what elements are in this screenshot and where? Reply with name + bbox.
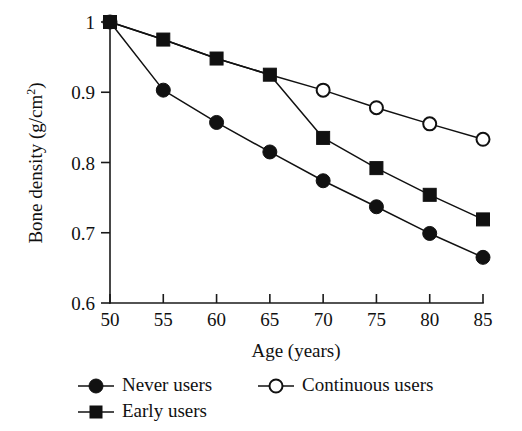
data-point-never-users-age-60 [210, 115, 224, 129]
series-markers-group [103, 15, 490, 264]
data-point-never-users-age-55 [156, 83, 170, 97]
data-point-never-users-age-85 [476, 250, 490, 264]
x-tick-label-60: 60 [207, 309, 226, 330]
data-point-early-users-age-55 [157, 33, 170, 46]
x-axis-group: 5055606570758085 [101, 294, 493, 330]
y-tick-marks [101, 22, 110, 303]
y-tick-label-1: 1 [86, 12, 96, 33]
x-axis-title: Age (years) [251, 340, 340, 362]
legend-label-early-users: Early users [122, 400, 207, 421]
y-axis-group: 0.60.70.80.91 [71, 12, 110, 314]
x-tick-label-55: 55 [154, 309, 173, 330]
x-tick-label-50: 50 [101, 309, 120, 330]
x-tick-marks [110, 294, 483, 303]
legend-label-never-users: Never users [122, 374, 212, 395]
x-tick-label-70: 70 [314, 309, 333, 330]
x-tick-labels: 5055606570758085 [101, 309, 493, 330]
legend-entry-never-users[interactable]: Never users [78, 374, 212, 395]
data-point-early-users-age-80 [423, 188, 436, 201]
legend-marker-early-users [90, 406, 102, 418]
chart-legend: Never usersContinuous usersEarly users [78, 374, 433, 421]
y-axis-title: Bone density (g/cm2) [24, 82, 47, 243]
data-point-continuous-users-age-70 [317, 84, 330, 97]
y-tick-label-0.8: 0.8 [71, 153, 95, 174]
data-point-early-users-age-85 [477, 213, 490, 226]
data-point-early-users-age-60 [210, 52, 223, 65]
data-point-early-users-age-70 [317, 131, 330, 144]
data-point-never-users-age-80 [423, 226, 437, 240]
y-tick-label-0.7: 0.7 [71, 223, 95, 244]
legend-marker-continuous-users [270, 380, 283, 393]
y-tick-label-0.9: 0.9 [71, 82, 95, 103]
data-point-never-users-age-65 [263, 145, 277, 159]
chart-canvas: 0.60.70.80.91 5055606570758085 Bone dens… [0, 0, 522, 431]
legend-label-continuous-users: Continuous users [302, 374, 433, 395]
legend-entry-continuous-users[interactable]: Continuous users [258, 374, 433, 395]
series-lines-group [110, 22, 483, 257]
x-tick-label-80: 80 [420, 309, 439, 330]
data-point-never-users-age-70 [316, 174, 330, 188]
y-tick-label-0.6: 0.6 [71, 293, 95, 314]
x-tick-label-75: 75 [367, 309, 386, 330]
x-tick-label-65: 65 [260, 309, 279, 330]
series-line-never-users [110, 22, 483, 257]
y-tick-labels: 0.60.70.80.91 [71, 12, 95, 314]
data-point-early-users-age-65 [263, 68, 276, 81]
bone-density-line-chart: 0.60.70.80.91 5055606570758085 Bone dens… [0, 0, 522, 431]
x-tick-label-85: 85 [474, 309, 493, 330]
data-point-continuous-users-age-85 [477, 133, 490, 146]
data-point-never-users-age-75 [369, 200, 383, 214]
data-point-continuous-users-age-80 [423, 117, 436, 130]
data-point-early-users-age-50 [104, 16, 117, 29]
data-point-continuous-users-age-75 [370, 101, 383, 114]
legend-entry-early-users[interactable]: Early users [78, 400, 207, 421]
data-point-early-users-age-75 [370, 162, 383, 175]
legend-marker-never-users [89, 379, 103, 393]
